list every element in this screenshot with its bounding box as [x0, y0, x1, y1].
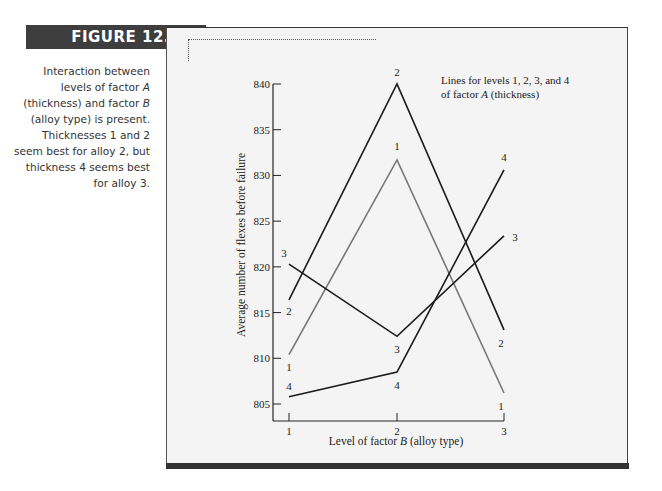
series-lines: 111222333444: [281, 66, 518, 412]
legend-annotation-line-2: of factor A (thickness): [441, 88, 539, 101]
series-line-4: [289, 170, 504, 397]
point-label: 2: [286, 305, 292, 317]
interaction-chart: 805810815820825830835840123 111222333444…: [0, 0, 662, 491]
point-label: 3: [394, 343, 400, 355]
y-tick-label: 820: [254, 261, 271, 273]
y-axis-label: Average number of flexes before failure: [235, 153, 248, 337]
y-tick-label: 830: [254, 169, 271, 181]
x-axis-label: Level of factor B (alloy type): [329, 435, 464, 448]
y-tick-label: 835: [254, 124, 271, 136]
point-label: 4: [394, 379, 400, 391]
point-label: 2: [498, 337, 504, 349]
point-label: 2: [394, 66, 400, 78]
point-label: 3: [281, 247, 287, 259]
point-label: 4: [286, 380, 292, 392]
y-tick-label: 805: [254, 398, 271, 410]
y-tick-label: 810: [254, 352, 271, 364]
point-label: 3: [512, 231, 518, 243]
point-label: 1: [498, 400, 504, 412]
point-label: 1: [394, 140, 400, 152]
x-tick-label: 3: [501, 425, 507, 437]
y-tick-label: 815: [254, 307, 271, 319]
series-line-1: [289, 160, 504, 393]
y-tick-label: 840: [254, 78, 271, 90]
legend-annotation-line-1: Lines for levels 1, 2, 3, and 4: [441, 74, 570, 86]
y-tick-label: 825: [254, 215, 271, 227]
series-line-2: [289, 84, 504, 330]
point-label: 1: [286, 361, 292, 373]
point-label: 4: [501, 151, 507, 163]
x-tick-label: 1: [286, 425, 292, 437]
